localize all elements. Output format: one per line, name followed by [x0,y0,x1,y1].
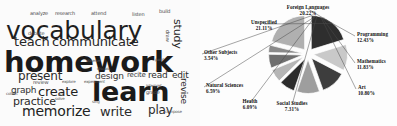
word-cloud-term: build [159,9,170,14]
word-cloud-term: revise [179,78,188,104]
pie-slice-percent: 20.22% [287,10,330,16]
word-cloud-term: interpret [146,84,162,88]
pie-slice-label: Health6.09% [242,98,257,111]
pie-slice-percent: 11.83% [357,64,386,70]
word-cloud-term: sing [92,100,99,104]
pie-chart-panel: Foreign Languages20.22%Programming12.43%… [200,0,397,126]
pie-slice-percent: 6.59% [206,88,243,94]
figure-root: vocabularyhomeworklearncommunicateteachm… [0,0,397,126]
pie-slice-percent: 21.11% [251,25,277,31]
word-cloud-term: communicate [52,35,139,48]
word-cloud-term: attend [91,11,106,16]
word-cloud-term: write [100,105,132,118]
word-cloud-term: explore [62,80,75,84]
word-cloud-panel: vocabularyhomeworklearncommunicateteachm… [0,0,200,126]
word-cloud-term: read [148,71,167,80]
word-cloud-term: compose [165,110,182,114]
pie-slice-label: Mathematics11.83% [357,58,386,71]
word-cloud-term: experiment [84,80,105,84]
word-cloud-term: solve [55,97,64,101]
word-cloud-term: research [55,11,75,16]
word-cloud-term: grade [146,90,160,95]
word-cloud-term: review [33,80,48,85]
pie-slice-percent: 7.31% [277,106,308,112]
word-cloud-term: listen [132,12,144,17]
word-cloud-term: practice [13,96,56,107]
pie-slice-label: Unspecified21.11% [251,19,277,32]
word-cloud-term: teach [14,35,49,48]
word-cloud-term: paint [155,58,164,62]
pie-slice-label: Other Subjects3.54% [204,49,237,62]
word-cloud-term: analyze [30,11,48,16]
word-cloud-term: observe [86,59,101,63]
word-cloud-term: study [172,19,183,49]
pie-slice-percent: 3.54% [204,55,237,61]
word-cloud-term: discuss [97,67,110,71]
pie-slice-label: Social Studies7.31% [277,100,308,113]
word-cloud-term: draw [165,30,170,42]
pie-slice-label: Foreign Languages20.22% [287,4,330,17]
pie-slice-percent: 6.09% [242,104,257,110]
pie-slice-label: Art10.80% [358,84,375,97]
word-cloud-term: collect [6,92,18,96]
word-cloud-term: debate [28,31,44,36]
pie-slice-label: Natural Sciences6.59% [206,82,243,95]
word-cloud-term: recite [127,72,146,79]
pie-slice-percent: 12.43% [357,37,388,43]
pie-slice-label: Programming12.43% [357,31,388,44]
pie-slice-percent: 10.80% [358,90,375,96]
